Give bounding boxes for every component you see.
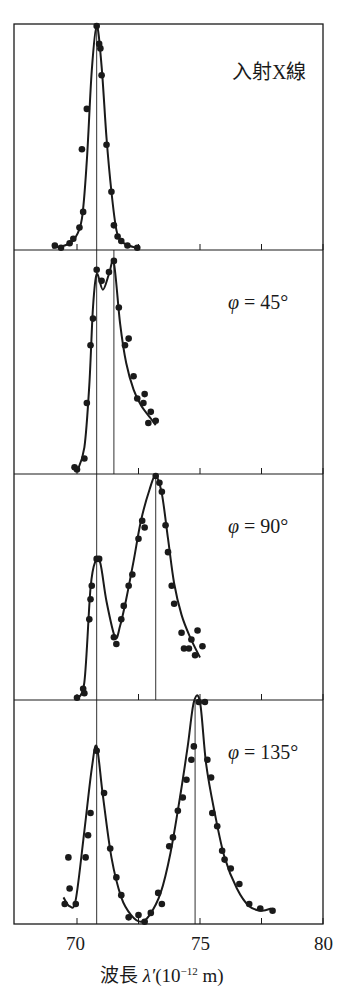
data-point [269,907,276,914]
data-point [139,518,146,525]
data-point [107,845,114,852]
data-point [130,373,137,380]
data-point [61,901,68,908]
angle-value: = 90° [239,515,288,537]
data-point [166,843,173,850]
data-point [156,479,163,486]
data-point [175,807,182,814]
data-point [188,636,195,643]
data-point [257,905,264,912]
data-point [85,832,92,839]
data-point [76,224,83,231]
x-axis-title: 波長 λ′(10−12 m) [100,960,224,987]
data-point [84,400,91,407]
data-point [111,258,118,265]
panel-3 [61,695,323,925]
data-point [103,141,110,148]
data-point [170,834,177,841]
data-point [135,535,142,542]
data-point [79,146,86,153]
data-point [124,242,131,249]
data-point [134,395,141,402]
data-point [155,890,162,897]
data-point [125,335,132,342]
data-point [111,222,118,229]
data-point [195,699,202,706]
data-point [178,630,185,637]
data-point [87,810,94,817]
panel-1 [71,250,323,474]
panel-label-incident-xray: 入射X線 [232,56,306,85]
data-point [194,627,201,634]
data-point [81,690,88,697]
data-point [96,556,103,563]
fit-curve [77,261,156,472]
fit-curve [77,476,200,698]
data-point [168,582,175,589]
data-point [93,266,100,273]
data-point [81,455,88,462]
data-point [118,616,125,623]
data-point [140,400,147,407]
unit-exponent: −12 [180,965,197,977]
data-point [199,643,206,650]
data-point [113,641,120,648]
data-point [141,391,148,398]
data-point [82,854,89,861]
data-point [66,885,73,892]
data-point [192,652,199,659]
data-point [106,269,113,276]
panel-2 [74,473,323,701]
data-point [162,522,169,529]
data-point [159,901,166,908]
data-point [125,914,132,921]
data-point [120,603,127,610]
data-point [148,910,155,917]
data-point [191,743,198,750]
data-point [159,488,166,495]
data-point [72,901,79,908]
data-point [214,823,221,830]
data-point [52,242,59,249]
data-point [97,45,104,52]
data-point [80,209,87,216]
data-point [98,72,105,79]
data-point [129,571,136,578]
data-point [86,616,93,623]
data-point [111,634,118,641]
data-point [93,23,100,30]
data-point [87,342,94,349]
data-point [135,912,142,919]
data-point [208,774,215,781]
data-point [74,466,81,473]
data-point [98,278,105,285]
data-point [141,918,148,925]
panel-label-phi-135: φ = 135° [228,741,298,764]
phi-symbol: φ [228,515,239,537]
panel-label-phi-45: φ = 45° [228,291,288,314]
data-point [171,600,178,607]
data-point [84,106,91,113]
data-point [152,473,159,480]
data-point [65,854,72,861]
data-point [125,582,132,589]
data-point [141,524,148,531]
angle-value: = 135° [239,741,298,763]
data-point [188,756,195,763]
data-point [209,810,216,817]
data-point [88,582,95,589]
data-point [148,409,155,416]
data-point [202,699,209,706]
data-point [152,417,159,424]
panel-frames [14,24,323,924]
lambda-symbol: λ′ [143,965,155,986]
data-point [108,188,115,195]
data-point [101,790,108,797]
data-point [116,304,123,311]
data-point [204,756,211,763]
unit-close: m) [198,965,224,986]
x-axis-title-prefix: 波長 [100,965,143,986]
panel-label-phi-90: φ = 90° [228,515,288,538]
data-point [227,865,234,872]
data-point [134,244,141,251]
